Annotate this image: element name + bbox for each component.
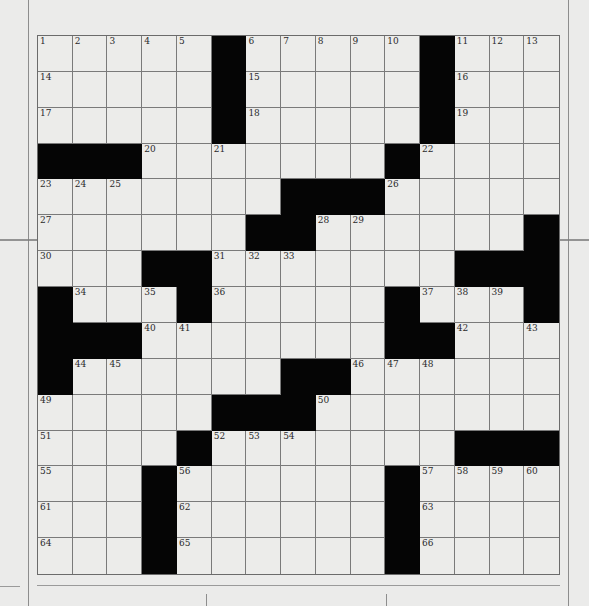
grid-cell[interactable] [524,502,559,538]
grid-cell[interactable] [351,395,386,431]
grid-cell[interactable] [281,287,316,323]
grid-cell[interactable] [316,287,351,323]
grid-cell[interactable]: 20 [142,144,177,180]
grid-cell[interactable] [316,251,351,287]
grid-cell[interactable]: 45 [107,359,142,395]
grid-cell[interactable] [177,215,212,251]
grid-cell[interactable] [177,359,212,395]
grid-cell[interactable]: 8 [316,36,351,72]
grid-cell[interactable] [351,502,386,538]
grid-cell[interactable] [490,323,525,359]
grid-cell[interactable] [316,323,351,359]
grid-cell[interactable] [524,144,559,180]
grid-cell[interactable]: 48 [420,359,455,395]
grid-cell[interactable]: 38 [455,287,490,323]
grid-cell[interactable] [142,179,177,215]
grid-cell[interactable] [212,359,247,395]
grid-cell[interactable] [420,179,455,215]
grid-cell[interactable] [177,395,212,431]
grid-cell[interactable] [177,72,212,108]
grid-cell[interactable]: 56 [177,466,212,502]
grid-cell[interactable]: 13 [524,36,559,72]
grid-cell[interactable] [73,108,108,144]
grid-cell[interactable]: 26 [385,179,420,215]
grid-cell[interactable] [351,323,386,359]
grid-cell[interactable] [246,466,281,502]
grid-cell[interactable] [142,72,177,108]
grid-cell[interactable] [142,359,177,395]
grid-cell[interactable] [490,395,525,431]
grid-cell[interactable]: 1 [38,36,73,72]
grid-cell[interactable] [420,215,455,251]
grid-cell[interactable] [107,431,142,467]
grid-cell[interactable] [107,251,142,287]
grid-cell[interactable] [316,538,351,574]
grid-cell[interactable] [73,431,108,467]
grid-cell[interactable] [281,466,316,502]
grid-cell[interactable]: 19 [455,108,490,144]
grid-cell[interactable]: 14 [38,72,73,108]
grid-cell[interactable] [142,108,177,144]
grid-cell[interactable] [490,502,525,538]
grid-cell[interactable] [524,179,559,215]
grid-cell[interactable]: 28 [316,215,351,251]
grid-cell[interactable] [107,466,142,502]
grid-cell[interactable]: 60 [524,466,559,502]
grid-cell[interactable] [455,395,490,431]
grid-cell[interactable] [490,72,525,108]
grid-cell[interactable]: 59 [490,466,525,502]
grid-cell[interactable] [316,108,351,144]
grid-cell[interactable] [490,215,525,251]
grid-cell[interactable] [524,359,559,395]
grid-cell[interactable]: 25 [107,179,142,215]
grid-cell[interactable] [107,108,142,144]
grid-cell[interactable] [177,144,212,180]
grid-cell[interactable]: 51 [38,431,73,467]
grid-cell[interactable] [73,538,108,574]
grid-cell[interactable]: 15 [246,72,281,108]
grid-cell[interactable]: 17 [38,108,73,144]
grid-cell[interactable]: 7 [281,36,316,72]
grid-cell[interactable]: 5 [177,36,212,72]
grid-cell[interactable] [73,251,108,287]
grid-cell[interactable]: 66 [420,538,455,574]
grid-cell[interactable] [246,502,281,538]
grid-cell[interactable]: 3 [107,36,142,72]
grid-cell[interactable] [455,359,490,395]
grid-cell[interactable] [455,179,490,215]
grid-cell[interactable] [107,72,142,108]
grid-cell[interactable]: 21 [212,144,247,180]
grid-cell[interactable]: 39 [490,287,525,323]
grid-cell[interactable]: 44 [73,359,108,395]
grid-cell[interactable] [420,395,455,431]
grid-cell[interactable]: 36 [212,287,247,323]
grid-cell[interactable] [351,251,386,287]
grid-cell[interactable] [212,215,247,251]
grid-cell[interactable] [212,538,247,574]
grid-cell[interactable]: 6 [246,36,281,72]
grid-cell[interactable]: 52 [212,431,247,467]
grid-cell[interactable]: 10 [385,36,420,72]
grid-cell[interactable]: 65 [177,538,212,574]
grid-cell[interactable] [316,72,351,108]
grid-cell[interactable] [107,215,142,251]
grid-cell[interactable] [385,395,420,431]
grid-cell[interactable]: 58 [455,466,490,502]
grid-cell[interactable]: 29 [351,215,386,251]
grid-cell[interactable] [351,431,386,467]
grid-cell[interactable]: 53 [246,431,281,467]
grid-cell[interactable]: 55 [38,466,73,502]
grid-cell[interactable] [351,144,386,180]
grid-cell[interactable] [524,108,559,144]
grid-cell[interactable]: 22 [420,144,455,180]
grid-cell[interactable] [246,359,281,395]
grid-cell[interactable] [524,538,559,574]
grid-cell[interactable] [316,144,351,180]
grid-cell[interactable] [351,538,386,574]
grid-cell[interactable] [420,251,455,287]
grid-cell[interactable]: 63 [420,502,455,538]
grid-cell[interactable]: 54 [281,431,316,467]
grid-cell[interactable] [73,72,108,108]
grid-cell[interactable]: 42 [455,323,490,359]
grid-cell[interactable]: 23 [38,179,73,215]
